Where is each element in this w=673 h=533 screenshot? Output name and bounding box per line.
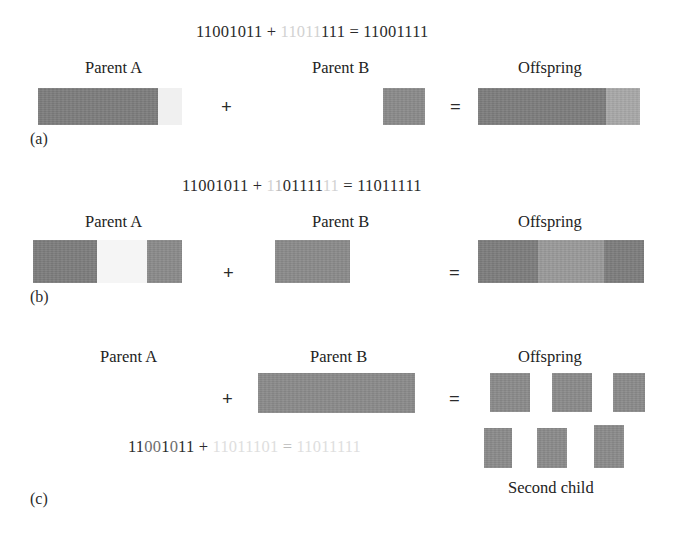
row-c-second-child-block-1 — [484, 428, 512, 468]
eq-a-parent-a: 11001011 — [196, 22, 262, 41]
row-b-offspring-segment-1 — [478, 240, 538, 283]
row-c-header-parent-b: Parent B — [310, 347, 367, 367]
row-c-plus-operator: + — [222, 388, 233, 410]
equation-row-c: 11001011 + 11011101 = 11011111 — [128, 437, 361, 457]
row-label-c: (c) — [30, 490, 48, 508]
row-a-header-parent-a: Parent A — [85, 58, 142, 78]
row-c-offspring-block-1 — [490, 373, 530, 412]
eq-a-equals: = — [345, 22, 363, 41]
row-c-equals-operator: = — [449, 388, 460, 410]
row-b-header-parent-b: Parent B — [312, 212, 369, 232]
equation-row-a: 11001011 + 11011111 = 11001111 — [196, 22, 428, 42]
eq-b-parent-b-g4: 1 — [331, 176, 339, 195]
row-a-equals-operator: = — [450, 96, 461, 118]
eq-a-offspring: 11001111 — [363, 22, 428, 41]
eq-c-equals: = — [278, 437, 296, 456]
eq-b-parent-b-g2: 1 — [274, 176, 282, 195]
row-c-second-child-block-3 — [594, 425, 624, 468]
row-b-equals-operator: = — [449, 262, 460, 284]
row-a-plus-operator: + — [221, 96, 232, 118]
row-c-second-child-label: Second child — [508, 478, 594, 498]
row-label-b: (b) — [30, 288, 49, 306]
eq-b-plus: + — [248, 176, 266, 195]
row-a-parent-a-block-faded — [158, 88, 182, 125]
row-b-header-parent-a: Parent A — [85, 212, 142, 232]
eq-b-parent-b-d1: 011 — [283, 176, 307, 195]
eq-c-plus: + — [194, 437, 212, 456]
row-c-parent-b-block — [258, 373, 415, 413]
row-a-parent-b-block — [383, 88, 425, 125]
row-b-parent-a-block-gap — [97, 240, 147, 283]
eq-a-plus: + — [262, 22, 280, 41]
eq-b-parent-b-g3: 1 — [323, 176, 331, 195]
row-b-parent-a-block-left — [33, 240, 97, 283]
eq-c-parent-a-g2: 0 — [170, 437, 178, 456]
row-b-plus-operator: + — [223, 262, 234, 284]
figure-canvas: 11001011 + 11011111 = 11001111 Parent A … — [0, 0, 673, 533]
row-a-offspring-block-right — [606, 88, 640, 125]
eq-b-offspring: 11011111 — [357, 176, 422, 195]
eq-c-parent-a-d2: 1 — [161, 437, 169, 456]
eq-c-parent-a-d3: 11 — [178, 437, 194, 456]
row-b-parent-b-block — [275, 240, 350, 283]
row-b-parent-a-block-right — [147, 240, 182, 283]
row-a-header-offspring: Offspring — [518, 58, 582, 78]
row-b-offspring-segment-2 — [538, 240, 604, 283]
eq-c-parent-a-g1: 00 — [144, 437, 161, 456]
row-a-offspring-block-left — [478, 88, 606, 125]
eq-c-parent-a-d1: 11 — [128, 437, 144, 456]
eq-a-parent-b-gray: 11011 — [281, 22, 321, 41]
row-c-second-child-block-2 — [537, 428, 567, 468]
eq-b-parent-a: 11001011 — [182, 176, 248, 195]
row-c-header-parent-a: Parent A — [100, 347, 157, 367]
equation-row-b: 11001011 + 110111111 = 11011111 — [182, 176, 422, 196]
eq-b-parent-b-d2: 11 — [307, 176, 323, 195]
row-label-a: (a) — [30, 130, 48, 148]
eq-a-parent-b-dark: 111 — [321, 22, 345, 41]
row-a-header-parent-b: Parent B — [312, 58, 369, 78]
row-c-header-offspring: Offspring — [518, 347, 582, 367]
row-b-header-offspring: Offspring — [518, 212, 582, 232]
row-c-offspring-block-3 — [613, 373, 645, 412]
eq-c-parent-b: 11011101 — [213, 437, 279, 456]
eq-c-offspring: 11011111 — [296, 437, 361, 456]
eq-b-equals: = — [339, 176, 357, 195]
row-c-offspring-block-2 — [552, 373, 592, 412]
row-b-offspring-segment-3 — [604, 240, 644, 283]
row-a-parent-a-block — [38, 88, 158, 125]
